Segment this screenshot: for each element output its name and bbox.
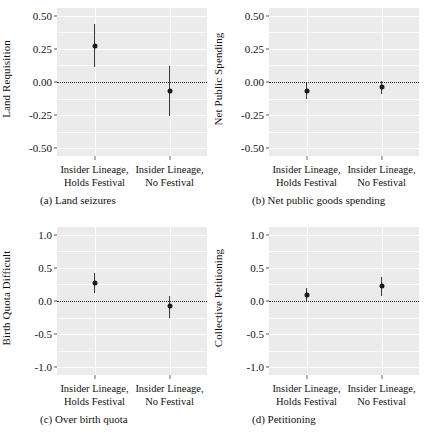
zero-reference-line bbox=[57, 301, 207, 302]
x-tick-mark bbox=[94, 156, 95, 160]
x-category-label-line: No Festival bbox=[132, 395, 207, 408]
x-category-label-line: Insider Lineage, bbox=[132, 382, 207, 395]
gridline-major bbox=[57, 367, 207, 368]
point-estimate-marker bbox=[379, 85, 384, 90]
x-tick-mark bbox=[381, 375, 382, 379]
panel-c-plot-area bbox=[57, 227, 207, 375]
y-tick-label: 0.50 bbox=[33, 10, 52, 22]
y-tick-label: 0.5 bbox=[250, 262, 264, 274]
gridline-major bbox=[269, 334, 419, 335]
x-tick-mark bbox=[306, 375, 307, 379]
y-tick-label: 0.25 bbox=[33, 43, 52, 55]
gridline-minor bbox=[57, 132, 207, 133]
gridline-minor bbox=[269, 132, 419, 133]
x-category-label-line: Holds Festival bbox=[269, 176, 344, 189]
gridline-minor bbox=[269, 99, 419, 100]
zero-reference-line bbox=[269, 301, 419, 302]
zero-reference-line bbox=[57, 82, 207, 83]
zero-reference-line bbox=[269, 82, 419, 83]
y-tick-label: -1.0 bbox=[247, 361, 264, 373]
panel-c: Birth Quota Difficult 1.00.50.0-0.5-1.0 … bbox=[0, 219, 212, 438]
gridline-minor bbox=[57, 318, 207, 319]
x-category-label-line: Holds Festival bbox=[57, 395, 132, 408]
point-estimate-marker bbox=[379, 284, 384, 289]
point-estimate-marker bbox=[304, 89, 309, 94]
x-category-label-line: Insider Lineage, bbox=[344, 163, 419, 176]
x-category-label-line: No Festival bbox=[132, 176, 207, 189]
panel-d-plot-area bbox=[269, 227, 419, 375]
x-category-label: Insider Lineage,No Festival bbox=[344, 163, 419, 189]
y-tick-label: -1.0 bbox=[35, 361, 52, 373]
x-category-label: Insider Lineage,Holds Festival bbox=[57, 382, 132, 408]
x-category-label-line: Insider Lineage, bbox=[269, 163, 344, 176]
point-estimate-marker bbox=[92, 281, 97, 286]
gridline-minor bbox=[269, 251, 419, 252]
gridline-major bbox=[269, 367, 419, 368]
panel-a: Land Requisition 0.500.250.00-0.25-0.50 … bbox=[0, 0, 212, 219]
x-category-label: Insider Lineage,No Festival bbox=[132, 382, 207, 408]
panel-c-x-tick-labels: Insider Lineage,Holds FestivalInsider Li… bbox=[57, 382, 207, 408]
x-category-label-line: No Festival bbox=[344, 176, 419, 189]
x-category-label: Insider Lineage,Holds Festival bbox=[269, 382, 344, 408]
gridline-major bbox=[269, 148, 419, 149]
gridline-major bbox=[269, 268, 419, 269]
gridline-minor bbox=[57, 99, 207, 100]
y-tick-label: 0.50 bbox=[245, 10, 264, 22]
x-category-label-line: Insider Lineage, bbox=[269, 382, 344, 395]
panel-b-y-tick-labels: 0.500.250.00-0.25-0.50 bbox=[228, 0, 268, 160]
x-tick-mark bbox=[169, 375, 170, 379]
gridline-minor bbox=[57, 251, 207, 252]
y-tick-label: -0.25 bbox=[29, 109, 52, 121]
y-tick-label: 0.25 bbox=[245, 43, 264, 55]
gridline-minor bbox=[57, 351, 207, 352]
gridline-major bbox=[269, 115, 419, 116]
gridline-major bbox=[57, 334, 207, 335]
gridline-major bbox=[57, 268, 207, 269]
panel-d: Collective Petitioning 1.00.50.0-0.5-1.0… bbox=[212, 219, 424, 438]
gridline-minor bbox=[57, 65, 207, 66]
panel-c-caption: (c) Over birth quota bbox=[40, 413, 128, 425]
gridline-minor bbox=[57, 284, 207, 285]
figure-grid: Land Requisition 0.500.250.00-0.25-0.50 … bbox=[0, 0, 424, 438]
gridline-minor bbox=[269, 32, 419, 33]
x-tick-mark bbox=[169, 156, 170, 160]
x-category-label: Insider Lineage,No Festival bbox=[344, 382, 419, 408]
y-tick-label: -0.50 bbox=[241, 142, 264, 154]
gridline-major bbox=[269, 16, 419, 17]
y-tick-label: 0.00 bbox=[33, 76, 52, 88]
point-estimate-marker bbox=[167, 89, 172, 94]
panel-a-y-tick-labels: 0.500.250.00-0.25-0.50 bbox=[16, 0, 56, 160]
x-category-label-line: Insider Lineage, bbox=[132, 163, 207, 176]
x-category-label-line: Holds Festival bbox=[57, 176, 132, 189]
y-tick-label: -0.5 bbox=[35, 328, 52, 340]
panel-d-x-tick-labels: Insider Lineage,Holds FestivalInsider Li… bbox=[269, 382, 419, 408]
panel-c-y-axis-title: Birth Quota Difficult bbox=[0, 223, 16, 373]
gridline-minor bbox=[57, 32, 207, 33]
x-category-label: Insider Lineage,No Festival bbox=[132, 163, 207, 189]
y-tick-label: 1.0 bbox=[250, 229, 264, 241]
gridline-major bbox=[57, 148, 207, 149]
x-category-label-line: Insider Lineage, bbox=[57, 163, 132, 176]
x-category-label: Insider Lineage,Holds Festival bbox=[57, 163, 132, 189]
panel-b-caption: (b) Net public goods spending bbox=[252, 194, 385, 206]
y-tick-label: 0.5 bbox=[38, 262, 52, 274]
panel-a-caption: (a) Land seizures bbox=[40, 194, 116, 206]
gridline-major bbox=[57, 115, 207, 116]
x-category-label: Insider Lineage,Holds Festival bbox=[269, 163, 344, 189]
y-tick-label: 0.0 bbox=[38, 295, 52, 307]
x-category-label-line: No Festival bbox=[344, 395, 419, 408]
y-tick-label: 0.0 bbox=[250, 295, 264, 307]
y-tick-label: 0.00 bbox=[245, 76, 264, 88]
point-estimate-marker bbox=[167, 304, 172, 309]
panel-b-y-axis-title: Net Public Spending bbox=[212, 4, 228, 154]
gridline-major bbox=[57, 235, 207, 236]
gridline-minor bbox=[269, 351, 419, 352]
panel-b-x-tick-labels: Insider Lineage,Holds FestivalInsider Li… bbox=[269, 163, 419, 189]
gridline-major bbox=[269, 49, 419, 50]
panel-a-plot-area bbox=[57, 8, 207, 156]
y-tick-label: -0.50 bbox=[29, 142, 52, 154]
panel-c-y-tick-labels: 1.00.50.0-0.5-1.0 bbox=[16, 219, 56, 379]
gridline-major bbox=[57, 49, 207, 50]
panel-d-y-tick-labels: 1.00.50.0-0.5-1.0 bbox=[228, 219, 268, 379]
y-tick-label: -0.25 bbox=[241, 109, 264, 121]
